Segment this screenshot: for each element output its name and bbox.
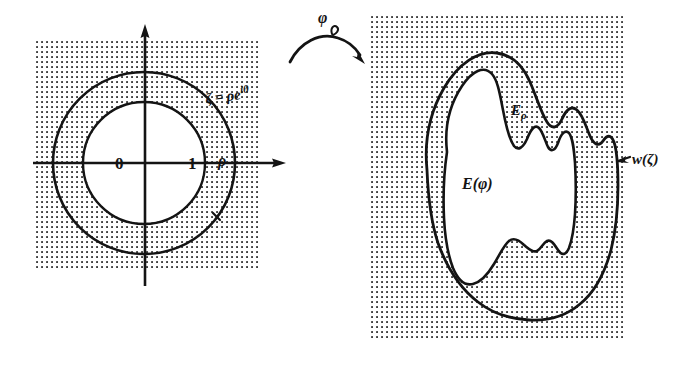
- unit-radius-label: 1: [188, 155, 197, 172]
- phi-stem-loop: [331, 26, 338, 35]
- conformal-mapping-figure: ζ=ρeiθ 0 1 ρ φ Eρ E(φ) w(ζ): [0, 0, 682, 376]
- w-zeta-base: w: [632, 151, 642, 167]
- phi-map-label: φ: [318, 10, 327, 26]
- zeta-exponent: iθ: [239, 82, 249, 95]
- figure-canvas: [0, 0, 682, 376]
- e-phi-argument: (φ): [473, 175, 493, 192]
- phi-map-arrow-graphic: [290, 26, 365, 64]
- origin-label: 0: [115, 155, 124, 172]
- left-panel-zeta-plane: [33, 24, 286, 286]
- e-phi-region-label: E(φ): [462, 176, 493, 192]
- e-rho-base: E: [511, 102, 521, 118]
- phi-arrowhead: [352, 51, 365, 64]
- e-phi-base: E: [462, 175, 473, 192]
- w-zeta-boundary-label: w(ζ): [632, 152, 659, 167]
- rho-radius-label: ρ: [218, 153, 226, 169]
- w-zeta-argument: (ζ): [642, 151, 659, 167]
- imaginary-axis-arrowhead: [141, 24, 150, 38]
- zeta-equals-sign: =: [214, 89, 224, 106]
- zeta-symbol: ζ: [204, 90, 213, 107]
- e-rho-region-label: Eρ: [511, 103, 527, 121]
- e-rho-subscript: ρ: [521, 109, 527, 121]
- real-axis-arrowhead: [272, 159, 286, 168]
- right-panel-w-plane: [368, 14, 630, 340]
